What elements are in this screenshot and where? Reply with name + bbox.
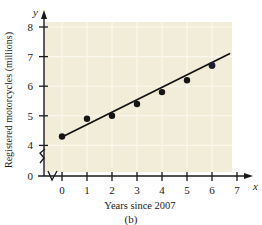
- y-tick-label-8: 8: [28, 21, 34, 33]
- x-axis-arrow: [244, 173, 253, 179]
- x-tick-label-3: 3: [134, 184, 140, 196]
- x-tick-label-4: 4: [159, 184, 165, 196]
- y-tick-label-5: 5: [28, 110, 34, 122]
- y-tick-label-7: 7: [28, 51, 34, 63]
- data-point: [109, 113, 115, 119]
- scatter-plot-svg: 8 7 6 5 4 0 0 1 2 3 4 5 6 7 y x Register…: [0, 0, 262, 225]
- data-point: [59, 133, 65, 139]
- x-axis-title: Years since 2007: [104, 200, 175, 211]
- x-axis: [38, 173, 253, 179]
- x-axis-symbol: x: [252, 180, 258, 192]
- data-point: [184, 77, 190, 83]
- x-tick-label-7: 7: [234, 184, 240, 196]
- data-point: [84, 116, 90, 122]
- data-point: [159, 89, 165, 95]
- y-axis-symbol: y: [32, 6, 38, 18]
- y-tick-label-0: 0: [28, 170, 34, 182]
- y-tick-label-4: 4: [28, 139, 34, 151]
- chart-figure: 8 7 6 5 4 0 0 1 2 3 4 5 6 7 y x Register…: [0, 0, 262, 225]
- plot-background: [44, 22, 232, 172]
- y-axis-arrow: [41, 10, 47, 19]
- x-tick-label-1: 1: [84, 184, 90, 196]
- y-axis-title: Registered motorcycles (millions): [3, 32, 15, 168]
- x-tick-label-2: 2: [109, 184, 115, 196]
- x-tick-label-0: 0: [59, 184, 65, 196]
- x-tick-label-5: 5: [184, 184, 190, 196]
- data-point: [209, 62, 216, 69]
- x-tick-label-6: 6: [209, 184, 215, 196]
- figure-caption: (b): [125, 213, 138, 225]
- data-point: [134, 101, 140, 107]
- y-tick-label-6: 6: [28, 80, 34, 92]
